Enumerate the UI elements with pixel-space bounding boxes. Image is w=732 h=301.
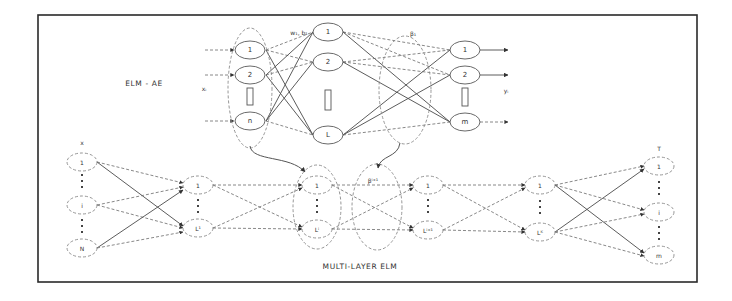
ml-layer4-label: Lᴷ xyxy=(537,229,543,236)
elm-ae-title: ELM - AE xyxy=(125,79,163,88)
ellipsis-box xyxy=(325,90,331,110)
figure-frame xyxy=(38,15,697,282)
ae-hidden-label: L xyxy=(326,131,330,139)
ae-hidden-label: 2 xyxy=(326,58,330,66)
elm-ae-network: 1 2 n 1 2 L 1 2 m xᵢ w₁, b₁ β₁ yᵢ ELM - … xyxy=(125,23,508,148)
ellipsis-box xyxy=(462,88,468,106)
ml-layer1-label: 1 xyxy=(196,182,200,189)
ae-input-label: n xyxy=(248,117,252,125)
ae-y-label: yᵢ xyxy=(504,87,509,95)
elm-ae-input-hidden-edges xyxy=(266,32,313,135)
connector-arrow xyxy=(250,146,305,172)
ml-output-label: 1 xyxy=(657,163,661,170)
ml-beta-label: βⁱ⁺¹ xyxy=(368,177,379,185)
ml-layer3-label: 1 xyxy=(426,182,430,189)
ml-input-label: 1 xyxy=(80,159,84,166)
ae-hidden-label: 1 xyxy=(326,28,330,36)
ae-output-label: 1 xyxy=(463,46,467,54)
ml-input-label: N xyxy=(80,245,85,252)
vertical-dots xyxy=(427,199,429,213)
elm-ae-hidden-output-edges xyxy=(343,32,450,135)
vertical-dots xyxy=(197,199,199,213)
ae-x-label: xᵢ xyxy=(202,85,207,92)
ae-output-label: 2 xyxy=(463,71,467,79)
ellipsis-box xyxy=(247,88,253,105)
ml-layer3-label: Lⁱ⁺¹ xyxy=(423,227,434,234)
ae-output-label: m xyxy=(462,118,469,126)
ae-input-label: 1 xyxy=(248,46,252,54)
elm-diagram: 1 2 n 1 2 L 1 2 m xᵢ w₁, b₁ β₁ yᵢ ELM - … xyxy=(0,0,732,301)
vertical-dots xyxy=(316,199,318,213)
ml-layer4-label: 1 xyxy=(538,182,542,189)
multilayer-elm-title: MULTI-LAYER ELM xyxy=(323,262,398,271)
ml-output-label: m xyxy=(656,252,662,259)
ml-x-label: x xyxy=(80,139,84,146)
ae-weights-label: w₁, b₁ xyxy=(290,29,308,36)
ae-beta-label: β₁ xyxy=(410,30,417,38)
ml-layer2-label: 1 xyxy=(315,182,319,189)
ml-t-label: T xyxy=(656,145,661,152)
ae-input-label: 2 xyxy=(248,71,252,79)
ml-layer1-label: L¹ xyxy=(195,225,201,232)
multilayer-elm-network: 1 i N 1 L¹ 1 Lⁱ 1 Lⁱ⁺¹ 1 Lᴷ 1 i m x T βⁱ… xyxy=(67,139,674,271)
ml-layer2-label: Lⁱ xyxy=(315,226,319,233)
vertical-dots xyxy=(539,200,541,214)
